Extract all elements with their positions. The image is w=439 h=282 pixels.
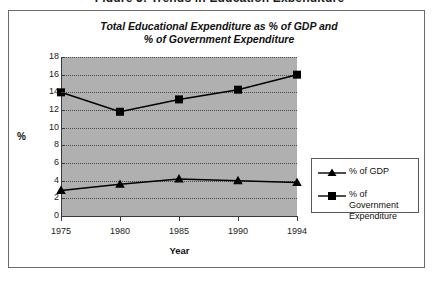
y-axis-tick-label: 6	[39, 157, 59, 167]
legend-label-gov-expenditure: % of Government Expenditure	[349, 189, 419, 222]
x-axis-tick-mark	[297, 216, 298, 221]
x-axis-tick-label: 1990	[216, 226, 260, 236]
y-axis-tick-label: 18	[39, 51, 59, 61]
gridline	[61, 110, 297, 111]
y-axis-line	[61, 57, 62, 217]
y-axis-tick-mark	[61, 145, 65, 146]
triangle-marker-icon	[317, 165, 347, 181]
x-axis-tick-label: 1994	[275, 226, 319, 236]
document-heading: Figure 5: Trends in Education Expenditur…	[0, 0, 439, 2]
y-axis-title: %	[17, 131, 26, 142]
x-axis-tick-mark	[120, 216, 121, 221]
chart-title-line-1: Total Educational Expenditure as % of GD…	[49, 20, 389, 33]
y-axis-tick-label: 12	[39, 104, 59, 114]
gridline	[61, 145, 297, 146]
x-axis-tick-mark	[179, 216, 180, 221]
legend-item-gov-expenditure: % of Government Expenditure	[317, 188, 417, 204]
y-axis-tick-mark	[61, 75, 65, 76]
y-axis-tick-label: 2	[39, 192, 59, 202]
x-axis-tick-mark	[238, 216, 239, 221]
chart-title-line-2: % of Government Expenditure	[49, 33, 389, 46]
gridline	[61, 181, 297, 182]
y-axis-tick-mark	[61, 92, 65, 93]
square-marker-icon	[317, 188, 347, 204]
gridline	[61, 92, 297, 93]
chart-figure-frame: Total Educational Expenditure as % of GD…	[8, 10, 425, 268]
legend-item-gdp: % of GDP	[317, 165, 417, 181]
y-axis-tick-label: 14	[39, 86, 59, 96]
x-axis-tick-label: 1980	[98, 226, 142, 236]
x-axis-title: Year	[61, 245, 298, 256]
y-axis-tick-mark	[61, 198, 65, 199]
chart-title: Total Educational Expenditure as % of GD…	[49, 20, 389, 46]
y-axis-tick-label: 16	[39, 69, 59, 79]
gridline	[61, 57, 297, 58]
y-axis-tick-label: 0	[39, 210, 59, 220]
x-axis-tick-mark	[61, 216, 62, 221]
gridline	[61, 198, 297, 199]
y-axis-tick-label: 4	[39, 175, 59, 185]
gridline	[61, 163, 297, 164]
y-axis-tick-label: 10	[39, 122, 59, 132]
gridline	[61, 128, 297, 129]
y-axis-tick-mark	[61, 128, 65, 129]
x-axis-tick-label: 1985	[157, 226, 201, 236]
y-axis-tick-mark	[61, 181, 65, 182]
legend-label-gdp: % of GDP	[349, 166, 419, 177]
y-axis-tick-mark	[61, 163, 65, 164]
gridline	[61, 75, 297, 76]
chart-legend: % of GDP % of Government Expenditure	[311, 158, 419, 213]
x-axis-tick-label: 1975	[39, 226, 83, 236]
y-axis-tick-labels: 024681012141618	[31, 57, 59, 217]
y-axis-tick-label: 8	[39, 139, 59, 149]
y-axis-tick-mark	[61, 57, 65, 58]
y-axis-tick-mark	[61, 110, 65, 111]
plot-area	[61, 57, 297, 216]
